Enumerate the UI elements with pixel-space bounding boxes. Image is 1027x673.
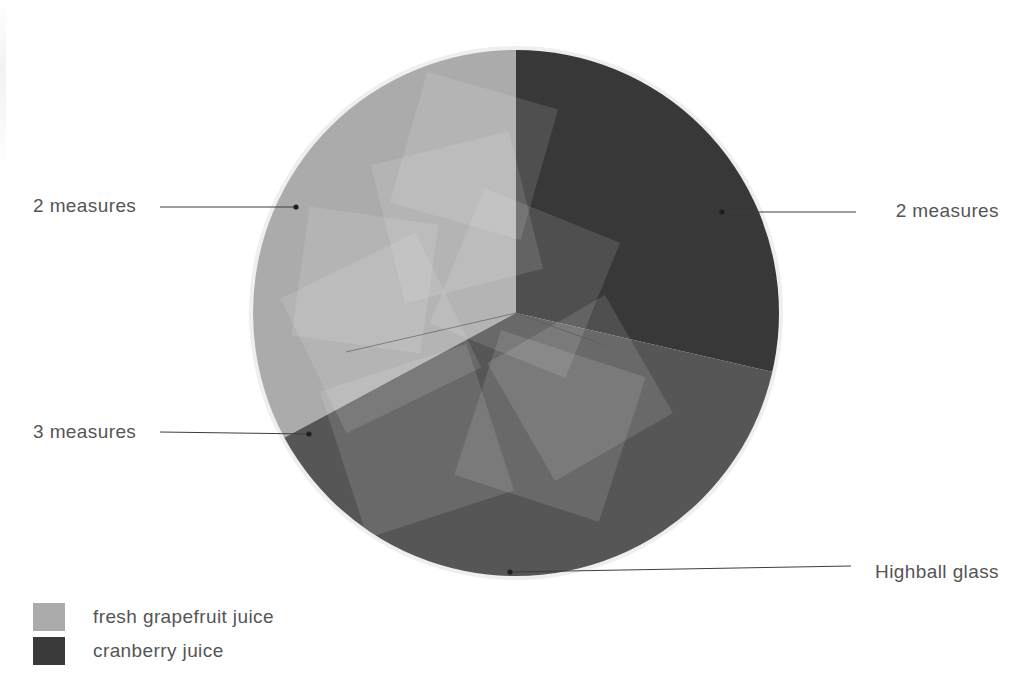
legend-item-grapefruit: fresh grapefruit juice xyxy=(33,600,274,634)
legend-swatch-grapefruit xyxy=(33,603,65,631)
ice-cube xyxy=(292,207,439,354)
legend: fresh grapefruit juice cranberry juice xyxy=(33,600,274,668)
callout-label-glass-type: Highball glass xyxy=(875,561,999,583)
callout-dot-base-spirit xyxy=(306,431,311,436)
highball-glass-top-view xyxy=(0,0,1027,673)
legend-label-cranberry: cranberry juice xyxy=(93,640,224,662)
legend-item-cranberry: cranberry juice xyxy=(33,634,274,668)
callout-label-grapefruit-amount: 2 measures xyxy=(33,195,136,217)
callout-label-base-spirit-amount: 3 measures xyxy=(33,421,136,443)
callout-label-cranberry-amount: 2 measures xyxy=(896,200,999,222)
legend-swatch-cranberry xyxy=(33,637,65,665)
callout-dot-grapefruit xyxy=(293,204,298,209)
legend-label-grapefruit: fresh grapefruit juice xyxy=(93,606,274,628)
callout-dot-cranberry xyxy=(719,209,724,214)
callout-dot-glass xyxy=(507,569,512,574)
diagram-canvas: 2 measures 2 measures 3 measures Highbal… xyxy=(0,0,1027,673)
